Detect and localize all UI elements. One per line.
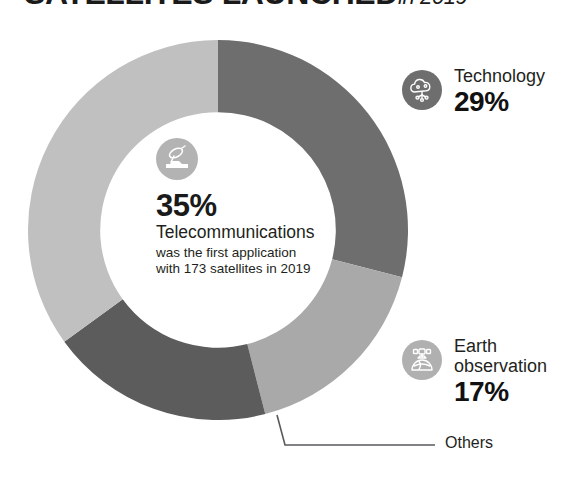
center-percent: 35% <box>156 190 372 221</box>
satellite-dish-icon <box>156 138 198 180</box>
legend-label-earth-line-1: Earth <box>454 336 547 356</box>
others-leader-line <box>255 400 455 460</box>
center-category-name: Telecommunications <box>156 223 372 243</box>
infographic-canvas: SATELLITES LAUNCHEDin 2019 35% Telecommu… <box>0 0 581 491</box>
page-title-main: SATELLITES LAUNCHED <box>24 0 398 11</box>
legend-percent-earth: 17% <box>454 377 547 407</box>
tech-cloud-icon <box>402 70 442 110</box>
legend-label-technology: Technology <box>454 66 545 86</box>
page-title-suffix: in 2019 <box>398 0 467 9</box>
others-label: Others <box>445 434 493 452</box>
legend-label-earth-line-2: observation <box>454 356 547 376</box>
center-summary: 35% Telecommunications was the first app… <box>128 138 372 318</box>
page-title: SATELLITES LAUNCHEDin 2019 <box>0 0 581 12</box>
center-note-line-1: was the first application <box>156 245 372 261</box>
legend-percent-technology: 29% <box>454 87 545 117</box>
center-note-line-2: with 173 satellites in 2019 <box>156 261 372 277</box>
earth-observation-icon <box>402 340 442 380</box>
